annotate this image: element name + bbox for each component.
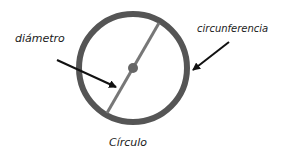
- circle-caption: Círculo: [109, 136, 147, 149]
- center-dot: [128, 63, 138, 73]
- circumference-label: circunferencia: [197, 23, 268, 34]
- diameter-arrow: [57, 60, 116, 87]
- diameter-label: diámetro: [15, 32, 65, 45]
- circumference-arrow: [193, 42, 229, 70]
- circle-diagram: diámetro circunferencia Círculo: [0, 0, 286, 151]
